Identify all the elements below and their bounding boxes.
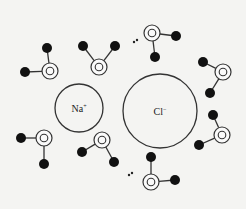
oxygen-atom — [91, 59, 107, 75]
electron-dot — [128, 174, 130, 176]
oxygen-atom — [144, 25, 160, 41]
hydrogen-atom — [78, 41, 88, 51]
hydrogen-atom — [205, 88, 215, 98]
hydrogen-atom — [150, 52, 160, 62]
water-molecule — [20, 43, 58, 79]
sodium-ion: Na+ — [55, 84, 103, 132]
hydrogen-atom — [39, 159, 49, 169]
water-molecule — [77, 132, 119, 167]
chloride-ion: Cl− — [123, 74, 197, 148]
hydration-diagram: Na+ Cl− — [0, 0, 246, 209]
water-molecule — [194, 110, 230, 150]
oxygen-atom — [143, 174, 159, 190]
hydrogen-atom — [16, 133, 26, 143]
water-molecule — [78, 41, 120, 75]
oxygen-atom — [36, 130, 52, 146]
water-molecule — [128, 152, 180, 190]
electron-dot — [133, 41, 135, 43]
hydrogen-atom — [110, 41, 120, 51]
electron-dot — [131, 172, 133, 174]
diagram-canvas: Na+ Cl− — [0, 0, 246, 209]
oxygen-atom — [42, 63, 58, 79]
lone-pair-dots — [133, 39, 138, 43]
water-molecule — [16, 130, 52, 169]
water-molecule — [133, 25, 181, 62]
lone-pair-dots — [128, 172, 133, 176]
water-molecule — [198, 57, 231, 98]
hydrogen-atom — [146, 152, 156, 162]
oxygen-atom — [94, 132, 110, 148]
oxygen-atom — [214, 127, 230, 143]
chloride-ion-label: Cl− — [154, 106, 167, 117]
hydrogen-atom — [109, 157, 119, 167]
oxygen-atom — [215, 64, 231, 80]
electron-dot — [136, 39, 138, 41]
hydrogen-atom — [42, 43, 52, 53]
hydrogen-atom — [208, 110, 218, 120]
hydrogen-atom — [198, 57, 208, 67]
sodium-ion-label: Na+ — [71, 103, 87, 114]
ions-layer: Na+ Cl− — [55, 74, 197, 148]
hydrogen-atom — [170, 175, 180, 185]
hydrogen-atom — [194, 140, 204, 150]
hydrogen-atom — [20, 67, 30, 77]
hydrogen-atom — [171, 31, 181, 41]
hydrogen-atom — [77, 147, 87, 157]
